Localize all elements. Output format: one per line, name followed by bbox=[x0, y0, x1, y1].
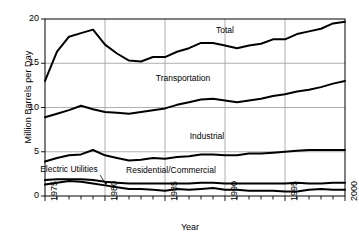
x-tick-label: 1985 bbox=[169, 181, 179, 201]
series-label: Total bbox=[216, 25, 234, 35]
x-tick-label: 1980 bbox=[109, 181, 119, 201]
y-tick-label: 20 bbox=[19, 13, 39, 23]
chart-canvas bbox=[0, 0, 359, 238]
x-tick-label: 1995 bbox=[289, 181, 299, 201]
series-label: Transportation bbox=[156, 73, 211, 83]
y-tick-label: 15 bbox=[19, 57, 39, 67]
series-label: Residential/Commercial bbox=[126, 165, 216, 175]
x-tick-label: 2000 bbox=[349, 181, 359, 201]
series-label: Electric Utilities bbox=[40, 164, 98, 174]
y-tick-label: 5 bbox=[19, 146, 39, 156]
y-tick-label: 10 bbox=[19, 102, 39, 112]
series-label: Industrial bbox=[190, 131, 225, 141]
x-tick-label: 1990 bbox=[229, 181, 239, 201]
y-tick-label: 0 bbox=[19, 190, 39, 200]
annotation-leader-line bbox=[100, 175, 108, 185]
x-tick-label: 1975 bbox=[49, 181, 59, 201]
chart-figure: Million Barrels per Day Year 05101520 19… bbox=[0, 0, 359, 238]
